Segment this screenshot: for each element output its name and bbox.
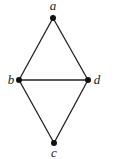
node-b: [16, 77, 22, 83]
node-label-d: d: [94, 72, 101, 87]
node-a: [50, 15, 56, 21]
graph-diagram: abdc: [0, 0, 125, 159]
edge-d-c: [54, 80, 88, 143]
node-label-a: a: [50, 0, 57, 13]
graph-svg: abdc: [0, 0, 125, 159]
edge-b-c: [19, 80, 54, 143]
node-label-c: c: [51, 145, 57, 159]
node-d: [85, 77, 91, 83]
edge-a-b: [19, 18, 53, 80]
edges: [19, 18, 88, 143]
edge-a-d: [53, 18, 88, 80]
node-label-b: b: [8, 72, 15, 87]
